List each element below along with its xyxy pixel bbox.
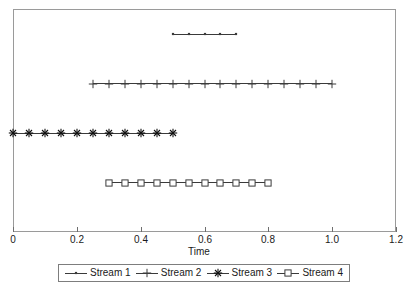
plus-marker <box>311 78 322 89</box>
asterisk-icon <box>207 267 229 279</box>
x-axis-tick <box>13 227 14 232</box>
point-marker <box>186 32 191 37</box>
legend-entry-label: Stream 1 <box>88 267 131 279</box>
square-marker <box>152 178 161 187</box>
point-marker <box>234 32 239 37</box>
square-marker <box>120 178 129 187</box>
point-marker <box>202 32 207 37</box>
plus-marker <box>151 78 162 89</box>
plus-marker <box>135 78 146 89</box>
x-axis-tick-label: 0.6 <box>185 234 225 246</box>
x-axis-tick-label: 1.0 <box>312 234 352 246</box>
x-axis-tick <box>205 227 206 232</box>
chart-container: 00.20.40.60.81.01.2 Time Stream 1Stream … <box>0 0 410 288</box>
square-marker <box>248 178 257 187</box>
x-axis-tick-label: 0.2 <box>57 234 97 246</box>
asterisk-marker <box>87 128 98 139</box>
legend-entry-label: Stream 4 <box>300 267 343 279</box>
legend-entry-label: Stream 3 <box>230 267 273 279</box>
asterisk-marker <box>39 128 50 139</box>
square-marker <box>104 178 113 187</box>
asterisk-marker <box>55 128 66 139</box>
x-axis-tick <box>396 227 397 232</box>
legend-entry-label: Stream 2 <box>159 267 202 279</box>
asterisk-marker <box>167 128 178 139</box>
x-axis-tick <box>141 227 142 232</box>
square-marker <box>168 178 177 187</box>
x-axis-tick <box>332 227 333 232</box>
asterisk-marker <box>119 128 130 139</box>
plus-marker <box>103 78 114 89</box>
plus-marker <box>183 78 194 89</box>
point-marker <box>170 32 175 37</box>
square-marker <box>264 178 273 187</box>
legend-entry-4[interactable]: Stream 4 <box>277 267 343 279</box>
asterisk-marker <box>135 128 146 139</box>
square-marker <box>216 178 225 187</box>
x-axis-tick-label: 0.8 <box>248 234 288 246</box>
asterisk-marker <box>8 128 19 139</box>
square-marker <box>184 178 193 187</box>
legend-entry-1[interactable]: Stream 1 <box>65 267 131 279</box>
plot-area-frame <box>13 9 396 232</box>
square-marker <box>200 178 209 187</box>
x-axis-title: Time <box>0 246 410 258</box>
plus-marker <box>215 78 226 89</box>
plus-marker <box>279 78 290 89</box>
plus-marker <box>295 78 306 89</box>
chart-legend: Stream 1Stream 2Stream 3Stream 4 <box>58 264 350 282</box>
x-axis-title-label: Time <box>188 246 210 257</box>
plus-icon <box>136 267 158 279</box>
x-axis-tick-label: 1.2 <box>376 234 410 246</box>
plus-marker <box>199 78 210 89</box>
x-axis-tick-label: 0.4 <box>121 234 161 246</box>
asterisk-marker <box>151 128 162 139</box>
x-axis-tick <box>268 227 269 232</box>
plus-marker <box>327 78 338 89</box>
plus-marker <box>167 78 178 89</box>
square-icon <box>277 267 299 279</box>
x-axis-tick-label: 0 <box>0 234 33 246</box>
plus-marker <box>263 78 274 89</box>
plus-marker <box>231 78 242 89</box>
point-marker <box>218 32 223 37</box>
asterisk-marker <box>103 128 114 139</box>
legend-entry-3[interactable]: Stream 3 <box>207 267 273 279</box>
asterisk-marker <box>71 128 82 139</box>
x-axis-tick <box>77 227 78 232</box>
square-marker <box>136 178 145 187</box>
legend-entry-2[interactable]: Stream 2 <box>136 267 202 279</box>
square-marker <box>232 178 241 187</box>
plus-marker <box>119 78 130 89</box>
plus-marker <box>247 78 258 89</box>
point-icon <box>65 267 87 279</box>
plus-marker <box>87 78 98 89</box>
asterisk-marker <box>23 128 34 139</box>
